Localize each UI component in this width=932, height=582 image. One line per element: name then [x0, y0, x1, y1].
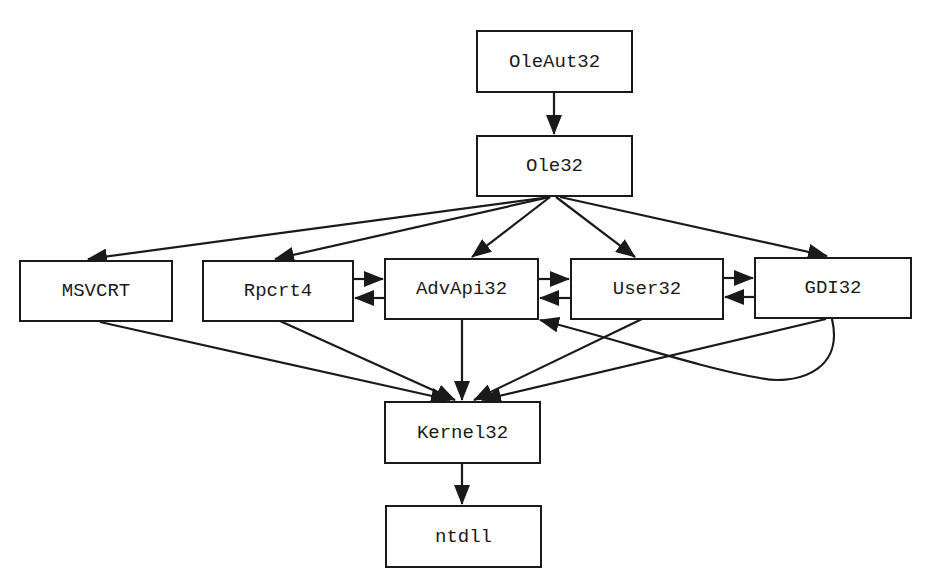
node-ole32: Ole32: [476, 135, 633, 197]
edge-gdi32-kernel32: [482, 319, 826, 400]
dependency-diagram: OleAut32 Ole32 MSVCRT Rpcrt4 AdvApi32 Us…: [0, 0, 932, 582]
node-rpcrt4: Rpcrt4: [202, 260, 354, 322]
node-user32: User32: [570, 258, 724, 320]
node-advapi32: AdvApi32: [384, 258, 539, 320]
node-ntdll: ntdll: [385, 505, 542, 568]
edge-user32-kernel32: [474, 319, 642, 400]
edge-msvcrt-kernel32: [100, 322, 450, 400]
edge-rpcrt4-kernel32: [280, 321, 455, 400]
node-gdi32: GDI32: [754, 257, 912, 319]
node-kernel32: Kernel32: [384, 401, 541, 464]
edge-ole32-gdi32: [560, 197, 827, 256]
node-oleaut32: OleAut32: [476, 30, 633, 93]
edge-ole32-user32: [556, 197, 635, 257]
node-msvcrt: MSVCRT: [19, 260, 173, 322]
